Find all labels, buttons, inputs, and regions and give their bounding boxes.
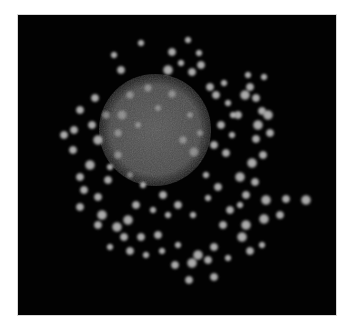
vesicle <box>59 130 69 140</box>
vesicle <box>149 206 157 214</box>
vesicle <box>111 221 123 233</box>
vesicle <box>209 272 219 282</box>
vesicle <box>87 120 97 130</box>
vesicle <box>265 128 275 138</box>
vesicle <box>251 134 261 144</box>
vesicle <box>250 177 260 187</box>
vesicle <box>203 255 213 265</box>
vesicle <box>131 200 141 210</box>
vesicle <box>209 140 219 150</box>
vesicle <box>216 120 226 130</box>
vesicle <box>106 163 114 171</box>
vesicle <box>164 211 172 219</box>
vesicle <box>174 241 182 249</box>
vesicle <box>258 150 268 160</box>
vesicle <box>167 89 177 99</box>
vesicle <box>258 213 270 225</box>
vesicle <box>221 148 231 158</box>
vesicle <box>195 49 203 57</box>
vesicle <box>125 90 135 100</box>
vesicle <box>110 51 118 59</box>
vesicle <box>75 172 85 182</box>
vesicle <box>184 36 192 44</box>
vesicle <box>258 241 266 249</box>
vesicle <box>103 175 113 185</box>
vesicle <box>236 201 244 209</box>
vesicle <box>177 59 185 67</box>
vesicle <box>101 110 111 120</box>
vesicle <box>126 171 134 179</box>
vesicle <box>213 182 223 192</box>
vesicle <box>260 73 268 81</box>
vesicle <box>162 64 174 76</box>
vesicle <box>262 109 274 121</box>
vesicle <box>225 205 235 215</box>
vesicle <box>153 230 163 240</box>
vesicle <box>244 71 252 79</box>
vesicle <box>173 200 183 210</box>
vesicle <box>224 99 232 107</box>
vesicle <box>229 111 237 119</box>
vesicle <box>96 209 108 221</box>
vesicle <box>186 257 198 269</box>
vesicle <box>252 119 264 131</box>
micrograph-image <box>18 15 336 315</box>
micrograph-panel <box>18 15 336 315</box>
vesicle <box>251 93 261 103</box>
vesicle <box>202 171 210 179</box>
vesicle <box>218 220 228 230</box>
vesicle <box>234 171 246 183</box>
vesicle <box>139 181 147 189</box>
vesicle <box>125 246 135 256</box>
vesicle <box>113 150 123 160</box>
vesicle <box>224 254 232 262</box>
vesicle <box>79 185 89 195</box>
vesicle <box>158 247 166 255</box>
vesicle <box>167 47 177 57</box>
vesicle <box>143 83 153 93</box>
vesicle <box>209 242 219 252</box>
vesicle <box>236 231 248 243</box>
vesicle <box>116 65 126 75</box>
vesicle <box>106 243 114 251</box>
vesicle <box>93 192 103 202</box>
vesicle <box>239 89 251 101</box>
vesicle <box>241 190 251 200</box>
vesicle <box>281 194 291 204</box>
vesicle <box>158 190 168 200</box>
vesicle <box>205 82 215 92</box>
vesicle <box>188 146 200 158</box>
vesicle <box>119 232 129 242</box>
vesicle <box>220 79 228 87</box>
vesicle <box>75 105 85 115</box>
vesicle <box>240 219 252 231</box>
vesicle <box>113 128 123 138</box>
vesicle <box>184 275 194 285</box>
vesicle <box>196 129 204 137</box>
vesicle <box>68 145 78 155</box>
vesicle <box>260 194 272 206</box>
vesicle <box>170 260 180 270</box>
vesicle <box>136 232 146 242</box>
vesicle <box>116 109 128 121</box>
vesicle <box>69 125 79 135</box>
vesicle <box>189 211 197 219</box>
vesicle <box>211 90 221 100</box>
vesicle <box>187 67 197 77</box>
vesicle <box>92 134 104 146</box>
vesicle <box>122 214 134 226</box>
vesicle <box>186 111 194 119</box>
vesicle <box>90 93 100 103</box>
vesicle <box>75 202 85 212</box>
vesicle <box>275 210 285 220</box>
vesicle <box>137 39 145 47</box>
vesicle <box>134 121 142 129</box>
vesicle <box>245 246 255 256</box>
vesicle <box>93 220 103 230</box>
vesicle <box>84 159 96 171</box>
vesicle <box>196 60 206 70</box>
vesicle <box>204 194 212 202</box>
vesicle <box>300 194 312 206</box>
vesicle <box>142 251 150 259</box>
vesicle <box>228 131 236 139</box>
